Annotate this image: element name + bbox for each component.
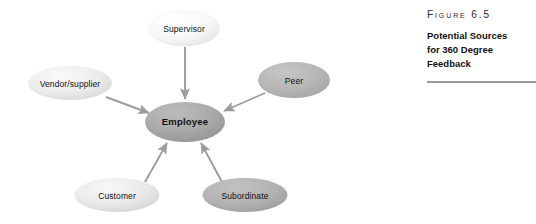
- figure-container: Supervisor Vendor/supplier Peer Customer…: [0, 0, 536, 224]
- figure-caption-panel: FIGURE 6.5 Potential Sources for 360 Deg…: [427, 0, 536, 224]
- figure-title: Potential Sources for 360 Degree Feedbac…: [427, 29, 532, 70]
- figure-title-line-3: Feedback: [427, 57, 532, 71]
- figure-title-line-1: Potential Sources: [427, 29, 532, 43]
- arrow-peer-to-employee: [224, 93, 265, 111]
- node-label-subordinate: Subordinate: [222, 192, 269, 201]
- arrow-subordinate-to-employee: [201, 143, 222, 182]
- figure-number-label: FIGURE 6.5: [427, 9, 491, 20]
- node-label-supervisor: Supervisor: [163, 25, 205, 34]
- node-label-vendor-supplier: Vendor/supplier: [40, 80, 101, 89]
- figure-title-line-2: for 360 Degree: [427, 43, 532, 57]
- arrow-vendor-to-employee: [106, 97, 149, 113]
- node-label-customer: Customer: [98, 192, 136, 201]
- diagram-360-feedback-sources: Supervisor Vendor/supplier Peer Customer…: [0, 0, 345, 224]
- node-label-employee: Employee: [162, 117, 208, 127]
- arrow-customer-to-employee: [145, 143, 167, 182]
- caption-divider-rule: [427, 81, 536, 83]
- node-label-peer: Peer: [285, 77, 303, 86]
